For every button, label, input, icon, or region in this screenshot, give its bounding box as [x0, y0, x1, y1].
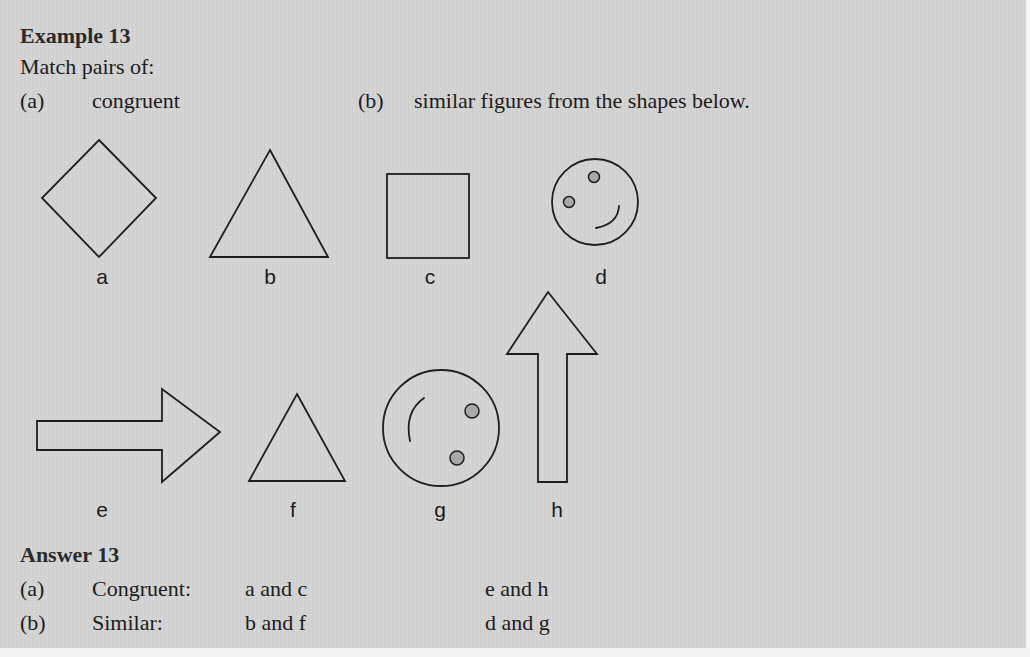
figure-label-h: h [551, 499, 563, 520]
figure-label-d: d [595, 266, 607, 287]
textbook-page: Example 13 Match pairs of: (a) congruent… [0, 0, 1026, 648]
figure-label-a: a [96, 266, 108, 287]
figure-d-face [552, 159, 638, 245]
figure-h-up-arrow [507, 292, 597, 482]
figure-e-right-arrow [37, 389, 220, 482]
figure-label-f: f [290, 499, 296, 520]
figure-label-b: b [264, 266, 276, 287]
answer-a-pair1: a and c [245, 578, 307, 600]
figure-f-triangle [249, 394, 345, 481]
figure-label-g: g [434, 499, 446, 520]
answer-heading: Answer 13 [20, 544, 119, 566]
figure-label-e: e [96, 499, 108, 520]
answer-a-marker: (a) [20, 578, 44, 600]
shapes-figure [0, 0, 1026, 648]
figure-c-square [387, 174, 469, 258]
answer-b-pair2: d and g [485, 612, 550, 634]
answer-b-category: Similar: [92, 612, 163, 634]
answer-a-category: Congruent: [92, 578, 191, 600]
figure-a-diamond [42, 140, 156, 257]
figure-g-face [383, 370, 499, 486]
answer-a-pair2: e and h [485, 578, 549, 600]
answer-b-pair1: b and f [245, 612, 306, 634]
answer-b-marker: (b) [20, 612, 46, 634]
figure-label-c: c [425, 266, 436, 287]
figure-b-triangle [210, 150, 328, 257]
